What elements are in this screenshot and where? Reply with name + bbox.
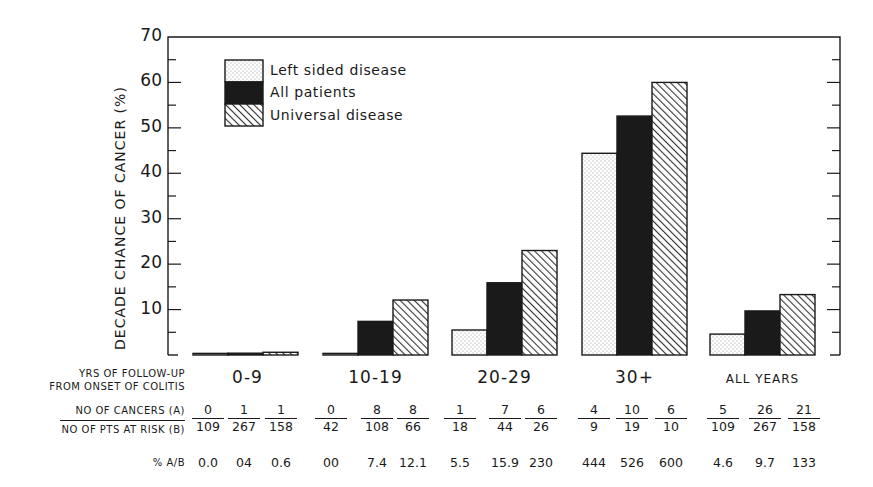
y-tick-label: 70 [122,25,162,45]
cancers-value: 10 [616,402,648,419]
at-risk-value: 10 [651,419,691,435]
fraction-cell: 1267 [224,402,264,435]
group-label-30-plus: 30+ [582,367,687,387]
fraction-cell: 1158 [261,402,301,435]
fraction-cell: 26267 [745,402,785,435]
fraction-cell: 8108 [357,402,397,435]
at-risk-value: 158 [784,419,824,435]
bar-left-sided [193,353,228,355]
percent-cell: 9.7 [743,455,787,470]
bar-left-sided [582,153,617,355]
y-tick-label: 30 [122,207,162,227]
row-label-cancers: NO OF CANCERS (A) [75,405,185,416]
bar-all-patients [745,311,780,355]
bar-universal [263,352,298,355]
percent-cell: 5.5 [438,455,482,470]
at-risk-value: 18 [440,419,480,435]
fraction-cell: 118 [440,402,480,435]
cancers-value: 6 [655,402,687,419]
bar-universal [522,251,557,355]
group-label-20-29: 20-29 [452,367,557,387]
x-axis-label-line2: FROM ONSET OF COLITIS [49,381,185,392]
bar-all-patients [487,283,522,355]
bar-left-sided [323,353,358,355]
cancers-value: 1 [265,402,297,419]
y-tick-label: 10 [122,298,162,318]
bar-left-sided [452,330,487,355]
cancers-value: 26 [749,402,781,419]
at-risk-value: 109 [188,419,228,435]
cancers-value: 1 [228,402,260,419]
cancers-value: 0 [315,402,347,419]
legend-swatch-hatched [225,104,263,126]
at-risk-value: 109 [703,419,743,435]
bars [193,82,815,355]
at-risk-value: 44 [485,419,525,435]
percent-cell: 00 [309,455,353,470]
y-tick-label: 40 [122,161,162,181]
bar-universal [393,300,428,355]
percent-cell: 600 [649,455,693,470]
at-risk-value: 108 [357,419,397,435]
legend-label-left-sided: Left sided disease [270,62,407,78]
cancers-value: 8 [361,402,393,419]
fraction-cell: 49 [574,402,614,435]
percent-cell: 12.1 [391,455,435,470]
cancers-value: 7 [489,402,521,419]
cancers-value: 21 [788,402,820,419]
percent-cell: 0.6 [259,455,303,470]
cancers-value: 0 [192,402,224,419]
group-label-10-19: 10-19 [323,367,428,387]
fraction-cell: 21158 [784,402,824,435]
cancers-value: 4 [578,402,610,419]
percent-cell: 133 [782,455,826,470]
y-tick-label: 20 [122,252,162,272]
cancers-value: 5 [707,402,739,419]
group-label-all-years: ALL YEARS [710,372,815,386]
bar-universal [652,82,687,355]
fraction-cell: 0109 [188,402,228,435]
at-risk-value: 19 [612,419,652,435]
bar-left-sided [710,334,745,355]
fraction-cell: 042 [311,402,351,435]
fraction-cell: 1019 [612,402,652,435]
at-risk-value: 26 [521,419,561,435]
row-label-at-risk: NO OF PTS AT RISK (B) [62,424,186,435]
at-risk-value: 267 [224,419,264,435]
bar-all-patients [228,353,263,355]
row-label-divider [60,420,185,421]
bar-all-patients [358,321,393,355]
at-risk-value: 267 [745,419,785,435]
fraction-cell: 610 [651,402,691,435]
legend-swatches [225,60,263,126]
at-risk-value: 158 [261,419,301,435]
bar-all-patients [617,116,652,355]
percent-cell: 526 [610,455,654,470]
legend-label-universal: Universal disease [270,107,403,123]
x-axis-label-line1: YRS OF FOLLOW-UP [79,368,185,379]
cancers-value: 1 [444,402,476,419]
legend-swatch-black [225,82,263,104]
y-tick-label: 50 [122,116,162,136]
at-risk-value: 42 [311,419,351,435]
legend-swatch-dotted [225,60,263,82]
fraction-cell: 866 [393,402,433,435]
fraction-cell: 626 [521,402,561,435]
cancers-value: 6 [525,402,557,419]
percent-cell: 230 [519,455,563,470]
y-tick-label: 60 [122,70,162,90]
fraction-cell: 744 [485,402,525,435]
at-risk-value: 9 [574,419,614,435]
bar-universal [780,295,815,355]
legend-label-all-patients: All patients [270,84,356,100]
group-label-0-9: 0-9 [195,367,300,387]
row-label-pct: % A/B [153,457,185,468]
cancers-value: 8 [397,402,429,419]
fraction-cell: 5109 [703,402,743,435]
at-risk-value: 66 [393,419,433,435]
percent-cell: 4.6 [701,455,745,470]
